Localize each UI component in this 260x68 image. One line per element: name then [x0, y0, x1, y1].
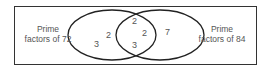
- set-84-ellipse: [116, 10, 204, 60]
- intersection-2-top: 2: [132, 16, 137, 26]
- intersection-2-mid: 2: [142, 28, 147, 38]
- set-72-label: Prime factors of 72: [18, 24, 78, 44]
- set-84-label: Prime factors of 84: [192, 24, 252, 44]
- set-84-only-7: 7: [165, 27, 170, 37]
- set-72-only-2: 2: [106, 30, 111, 40]
- set-72-only-3: 3: [94, 39, 99, 49]
- intersection-3-bottom: 3: [132, 40, 137, 50]
